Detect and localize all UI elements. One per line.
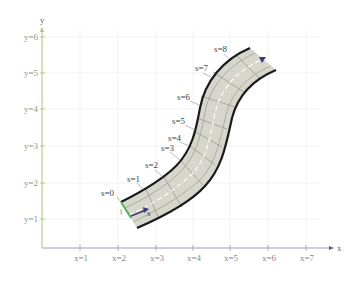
s-label-2: s=2 <box>145 160 158 170</box>
x-tick-1: x=1 <box>74 253 88 263</box>
frenet-frame-diagram: t s s=0 s=1 s=2 s=3 s=4 s=5 s=6 s=7 s=8 … <box>0 0 358 281</box>
y-tick-1: y=1 <box>24 214 38 224</box>
x-tick-5: x=5 <box>224 253 239 263</box>
y-tick-labels: y=1 y=2 y=3 y=4 y=5 y=6 <box>24 32 39 224</box>
t-axis-label: t <box>120 206 123 216</box>
y-tick-5: y=5 <box>24 68 39 78</box>
x-tick-labels: x=1 x=2 x=3 x=4 x=5 x=6 x=7 <box>74 253 315 263</box>
y-axis-name: y <box>40 15 45 25</box>
x-tick-4: x=4 <box>187 253 202 263</box>
x-tick-2: x=2 <box>112 253 126 263</box>
s-label-6: s=6 <box>177 92 191 102</box>
y-tick-2: y=2 <box>24 178 38 188</box>
x-tick-3: x=3 <box>150 253 165 263</box>
x-tick-6: x=6 <box>262 253 277 263</box>
s-label-8: s=8 <box>214 44 228 54</box>
s-label-1: s=1 <box>127 174 140 184</box>
s-axis-label: s <box>147 208 151 218</box>
y-tick-3: y=3 <box>24 141 39 151</box>
diagram-canvas: t s s=0 s=1 s=2 s=3 s=4 s=5 s=6 s=7 s=8 … <box>0 0 358 281</box>
s-label-0: s=0 <box>101 188 115 198</box>
s-label-5: s=5 <box>172 116 186 126</box>
x-axis-arrowhead <box>329 246 334 250</box>
s-label-7: s=7 <box>195 63 209 73</box>
s-label-3: s=3 <box>161 143 175 153</box>
y-tick-4: y=4 <box>24 104 39 114</box>
x-axis-name: x <box>337 243 342 253</box>
s-label-4: s=4 <box>168 133 182 143</box>
x-tick-7: x=7 <box>300 253 315 263</box>
y-tick-6: y=6 <box>24 32 39 42</box>
y-axis-arrowhead <box>40 27 44 32</box>
road-surface <box>121 48 276 228</box>
